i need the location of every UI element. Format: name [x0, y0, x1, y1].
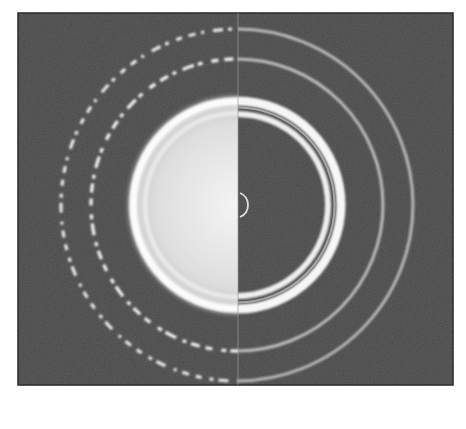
diffraction-pattern-figure: Split-view electron diffraction ring pat… [0, 0, 466, 429]
diffraction-image [0, 0, 466, 429]
